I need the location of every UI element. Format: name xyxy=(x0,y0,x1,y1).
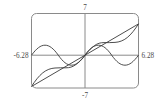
plot-figure: 7 -7 -6.28 6.28 xyxy=(0,0,164,99)
x-min-label: -6.28 xyxy=(14,52,29,60)
y-max-label: 7 xyxy=(83,4,87,12)
x-max-label: 6.28 xyxy=(142,52,155,60)
y-min-label: -7 xyxy=(82,92,88,100)
plot-canvas: 7 -7 -6.28 6.28 xyxy=(0,0,164,99)
